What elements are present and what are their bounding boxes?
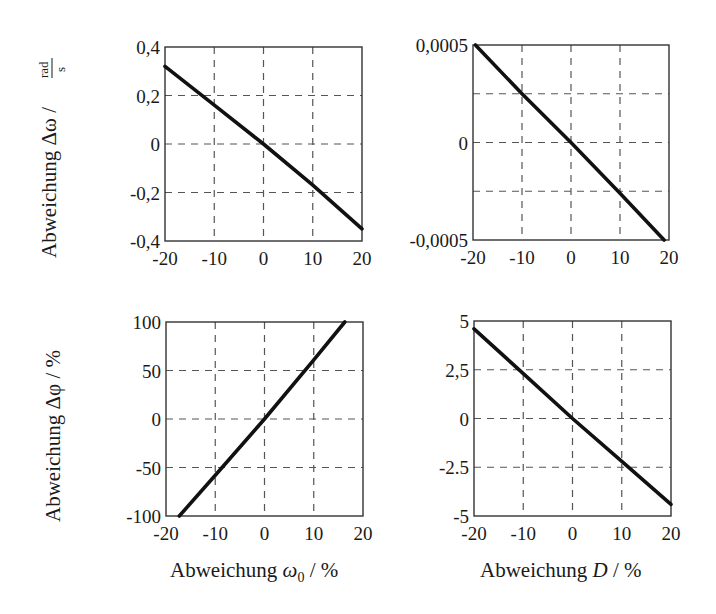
figure: -20-1001020-0,4-0,200,20,4 -20-1001020-0… — [0, 0, 716, 614]
x-tick-label: 10 — [304, 523, 323, 544]
y-tick-label: 0,2 — [136, 86, 160, 107]
x-axis-label-bottom-right: Abweichung D / % — [480, 558, 642, 582]
y-tick-label: -100 — [126, 506, 161, 527]
chart-canvas: -20-1001020-0,4-0,200,20,4 -20-1001020-0… — [0, 0, 716, 614]
chart-bottom-left: -20-1001020-100-50050100 — [126, 312, 372, 544]
chart-top-left: -20-1001020-0,4-0,200,20,4 — [130, 37, 372, 269]
y-tick-label: -0,0005 — [409, 230, 468, 251]
y-tick-label: 2,5 — [445, 360, 469, 381]
y-axis-label-top: Abweichung Δω / rad s — [36, 58, 68, 258]
x-tick-label: -10 — [509, 247, 534, 268]
y-tick-label: -5 — [453, 506, 469, 527]
x-tick-label: -10 — [511, 523, 536, 544]
y-axis-label-text: Abweichung Δφ / % — [41, 350, 65, 522]
x-tick-label: -10 — [203, 523, 228, 544]
y-tick-label: 50 — [142, 361, 161, 382]
y-tick-label: -50 — [136, 458, 161, 479]
unit-numerator: rad — [36, 61, 51, 78]
chart-bottom-right: -20-1001020-5-2.502,55 — [439, 311, 681, 544]
x-tick-label: 0 — [568, 523, 578, 544]
y-tick-label: 0 — [152, 409, 162, 430]
y-tick-label: 0 — [460, 409, 470, 430]
chart-top-right: -20-1001020-0,000500,0005 — [409, 35, 678, 268]
x-axis-label-bottom-left: Abweichung ω0 / % — [170, 558, 338, 585]
y-tick-label: 0,0005 — [416, 35, 468, 56]
y-tick-label: 0,4 — [136, 37, 160, 58]
x-tick-label: 0 — [259, 248, 269, 269]
x-tick-label: 20 — [660, 247, 679, 268]
y-tick-label: 0 — [151, 134, 161, 155]
y-tick-label: 5 — [460, 311, 470, 332]
y-axis-label-text: Abweichung Δω / — [37, 107, 61, 258]
y-tick-label: 0 — [459, 133, 469, 154]
x-tick-label: 10 — [611, 247, 630, 268]
x-tick-label: 20 — [354, 523, 373, 544]
x-tick-label: 20 — [662, 523, 681, 544]
x-tick-label: 10 — [303, 248, 322, 269]
y-tick-label: -0,4 — [130, 231, 161, 252]
y-tick-label: -2.5 — [439, 457, 469, 478]
y-tick-label: -0,2 — [130, 183, 160, 204]
x-tick-label: 0 — [566, 247, 576, 268]
x-tick-label: 20 — [353, 248, 372, 269]
y-tick-label: 100 — [133, 312, 162, 333]
y-axis-label-bottom: Abweichung Δφ / % — [41, 350, 65, 522]
unit-denominator: s — [53, 67, 68, 72]
x-tick-label: -10 — [202, 248, 227, 269]
x-tick-label: 10 — [612, 523, 631, 544]
x-tick-label: 0 — [260, 523, 270, 544]
